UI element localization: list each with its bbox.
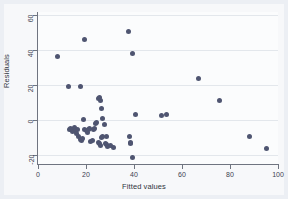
- x-axis-tick: [230, 165, 231, 169]
- scatter-point: [78, 84, 83, 89]
- x-axis-tick-label: 80: [226, 171, 234, 178]
- x-axis-tick-label: 40: [130, 171, 138, 178]
- scatter-point: [247, 134, 252, 139]
- y-axis-label: Residuals: [2, 54, 11, 88]
- scatter-point: [102, 122, 107, 127]
- x-axis-tick-label: 0: [36, 171, 40, 178]
- gridline-horizontal: [38, 120, 278, 121]
- y-axis-tick-label: -20: [28, 155, 35, 165]
- x-axis-line: [37, 164, 279, 165]
- scatter-plot-figure: -200204060020406080100 Residuals Fitted …: [0, 0, 288, 199]
- x-axis-tick: [86, 165, 87, 169]
- x-axis-tick-label: 100: [272, 171, 284, 178]
- scatter-point: [164, 112, 169, 117]
- scatter-point: [133, 112, 138, 117]
- x-axis-tick: [38, 165, 39, 169]
- x-axis-tick: [278, 165, 279, 169]
- scatter-point: [127, 134, 132, 139]
- scatter-point: [130, 51, 135, 56]
- scatter-point: [264, 146, 269, 151]
- scatter-point: [126, 29, 131, 34]
- scatter-point: [81, 117, 86, 122]
- gridline-horizontal: [38, 15, 278, 16]
- y-axis-tick-label: 60: [28, 15, 35, 23]
- scatter-point: [99, 106, 104, 111]
- scatter-point: [98, 98, 103, 103]
- x-axis-label: Fitted values: [0, 182, 288, 191]
- y-axis-tick-label: 20: [28, 85, 35, 93]
- scatter-point: [92, 126, 97, 131]
- scatter-point: [55, 54, 60, 59]
- x-axis-tick-label: 60: [178, 171, 186, 178]
- gridline-horizontal: [38, 85, 278, 86]
- x-axis-tick-label: 20: [82, 171, 90, 178]
- scatter-point: [90, 138, 95, 143]
- y-axis-line: [37, 12, 38, 165]
- x-axis-tick: [134, 165, 135, 169]
- x-axis-tick: [182, 165, 183, 169]
- y-axis-tick-label: 40: [28, 50, 35, 58]
- y-axis-tick-label: 0: [28, 120, 35, 124]
- scatter-point: [111, 145, 116, 150]
- gridline-horizontal: [38, 50, 278, 51]
- gridline-horizontal: [38, 155, 278, 156]
- scatter-point: [66, 84, 71, 89]
- plot-area: [38, 12, 278, 164]
- scatter-point: [217, 98, 222, 103]
